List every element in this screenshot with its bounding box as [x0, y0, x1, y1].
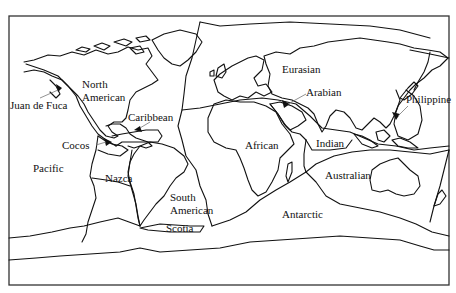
label-australian: Australian — [325, 169, 371, 181]
label-north-american-2: American — [82, 91, 126, 103]
red-sea-rift — [270, 104, 306, 140]
label-antarctic: Antarctic — [282, 208, 323, 220]
new-zealand-coast — [434, 190, 446, 206]
europe-coast — [214, 56, 272, 100]
label-caribbean: Caribbean — [128, 111, 174, 123]
label-scotia: Scotia — [166, 222, 194, 234]
label-north-american: North — [82, 78, 108, 90]
label-cocos: Cocos — [62, 139, 90, 151]
label-indian: Indian — [316, 137, 345, 149]
arctic-ridge — [200, 22, 430, 38]
label-african: African — [245, 139, 279, 151]
west-pacific-trench — [414, 52, 430, 90]
arctic-islands — [76, 36, 150, 54]
philippine-leader — [398, 106, 408, 116]
label-juan-de-fuca: Juan de Fuca — [10, 99, 68, 111]
plate-boundaries — [9, 22, 449, 242]
arabia-coast — [270, 102, 306, 130]
label-nazca: Nazca — [105, 172, 133, 184]
label-eurasian: Eurasian — [282, 63, 321, 75]
label-arabian: Arabian — [306, 86, 342, 98]
australian-antarctic-ridge — [306, 172, 449, 236]
label-south-american-2: American — [170, 204, 214, 216]
tonga-kermadec-trench — [430, 150, 449, 222]
central-indian-ridge — [304, 140, 306, 172]
australia-coast — [370, 158, 420, 196]
label-philippine: Philippine — [406, 93, 451, 105]
pacific-antarctic-ridge — [9, 218, 140, 238]
label-south-american: South — [170, 191, 196, 203]
antarctica-coast — [9, 236, 449, 260]
cocos-plate-boundary — [98, 136, 128, 156]
peru-chile-trench — [128, 150, 140, 226]
tectonic-plate-map: North American Juan de Fuca Caribbean Co… — [0, 0, 456, 293]
label-pacific: Pacific — [33, 162, 64, 174]
madagascar-coast — [286, 162, 292, 182]
